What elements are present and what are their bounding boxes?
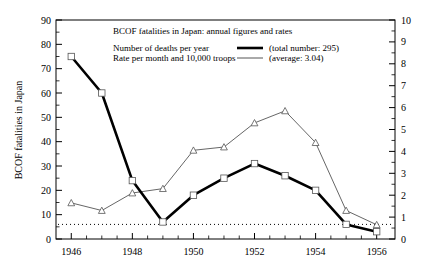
y2-tick-label: 1 [401,212,406,223]
deaths-data-point [129,177,135,183]
y-tick-label: 0 [46,234,51,245]
y-tick-label: 30 [41,161,51,172]
deaths-data-point [160,219,166,225]
x-tick-label: 1956 [367,246,387,257]
y-tick-label: 10 [41,209,51,220]
chart-title: BCOF fatalities in Japan: annual figures… [113,26,293,36]
legend-label-deaths: Number of deaths per year [113,43,209,53]
y-tick-label: 60 [41,88,51,99]
y2-tick-label: 7 [401,80,406,91]
deaths-data-point [99,90,105,96]
deaths-data-point [312,187,318,193]
y-tick-label: 20 [41,185,51,196]
y2-tick-label: 2 [401,190,406,201]
x-tick-label: 1950 [183,246,203,257]
dual-axis-line-chart: BCOF fatalities in Japan 010203040506070… [0,0,432,273]
deaths-data-point [68,53,74,59]
legend-note-rate: (average: 3.04) [269,53,323,63]
y2-tick-label: 0 [401,234,406,245]
y-tick-label: 40 [41,136,51,147]
x-tick-label: 1952 [245,246,265,257]
deaths-data-point [190,192,196,198]
y-axis-title: BCOF fatalities in Japan [13,81,24,180]
y2-tick-label: 3 [401,168,406,179]
y-tick-label: 70 [41,63,51,74]
x-tick-label: 1948 [122,246,142,257]
deaths-data-point [282,173,288,179]
x-tick-label: 1946 [61,246,81,257]
chart-figure: BCOF fatalities in Japan 010203040506070… [0,0,432,273]
y2-tick-label: 6 [401,102,406,113]
deaths-data-point [373,229,379,235]
deaths-data-point [343,221,349,227]
y-tick-label: 80 [41,39,51,50]
y2-tick-label: 8 [401,58,406,69]
deaths-data-point [251,160,257,166]
chart-background [0,0,432,273]
y2-tick-label: 10 [401,15,411,26]
y-tick-label: 90 [41,15,51,26]
y-tick-label: 50 [41,112,51,123]
y2-tick-label: 4 [401,146,406,157]
y2-tick-label: 5 [401,124,406,135]
legend-note-deaths: (total number: 295) [269,43,339,53]
x-tick-label: 1954 [306,246,326,257]
legend-label-rate: Rate per month and 10,000 troops [113,53,236,63]
deaths-data-point [221,175,227,181]
y2-tick-label: 9 [401,36,406,47]
